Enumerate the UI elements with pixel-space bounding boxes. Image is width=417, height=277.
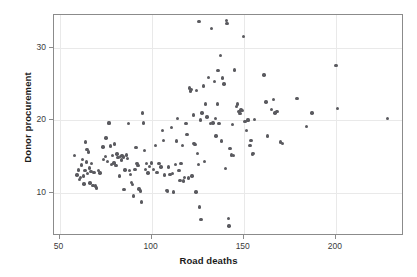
- data-point: [227, 224, 230, 227]
- data-point: [295, 97, 298, 100]
- data-point: [113, 142, 116, 145]
- data-point: [219, 54, 222, 57]
- data-point: [80, 163, 83, 166]
- y-tick-label: 30: [24, 42, 46, 52]
- data-point: [129, 173, 132, 176]
- data-point: [202, 84, 205, 87]
- data-point: [111, 154, 114, 157]
- data-point: [199, 118, 202, 121]
- x-tick-mark: [59, 235, 60, 239]
- data-point: [193, 143, 196, 146]
- data-point: [386, 117, 389, 120]
- data-point: [139, 189, 142, 192]
- data-point: [249, 139, 252, 142]
- data-point: [192, 113, 195, 116]
- data-point: [270, 108, 273, 111]
- plot-area: [53, 14, 403, 235]
- data-point: [221, 76, 224, 79]
- data-point: [104, 136, 107, 139]
- data-point: [177, 169, 180, 172]
- data-point: [167, 165, 170, 168]
- data-point: [248, 144, 251, 147]
- data-point: [174, 163, 177, 166]
- data-point: [247, 118, 250, 121]
- data-point: [118, 174, 121, 177]
- data-point: [150, 161, 153, 164]
- data-point: [310, 111, 313, 114]
- data-point: [205, 115, 208, 118]
- data-point: [195, 89, 198, 92]
- data-point: [227, 217, 230, 220]
- x-axis-title: Road deaths: [0, 255, 417, 266]
- x-tick-label: 100: [131, 241, 171, 251]
- data-point: [184, 122, 187, 125]
- data-point: [109, 144, 112, 147]
- data-point: [231, 123, 234, 126]
- data-point: [120, 158, 123, 161]
- data-point: [238, 112, 241, 115]
- data-point: [172, 190, 175, 193]
- data-point: [84, 140, 87, 143]
- data-point: [207, 76, 210, 79]
- data-point: [179, 162, 182, 165]
- y-tick-mark: [49, 119, 53, 120]
- x-tick-mark: [151, 235, 152, 239]
- data-point: [87, 150, 90, 153]
- data-point: [334, 64, 337, 67]
- data-point: [161, 129, 164, 132]
- data-point: [82, 174, 85, 177]
- data-point: [146, 171, 149, 174]
- data-point: [233, 68, 236, 71]
- data-point: [216, 102, 219, 105]
- data-point: [114, 164, 117, 167]
- data-point: [81, 158, 84, 161]
- data-point: [127, 122, 130, 125]
- data-point: [336, 107, 339, 110]
- data-point: [220, 139, 223, 142]
- data-point: [190, 88, 193, 91]
- x-tick-label: 200: [315, 241, 355, 251]
- data-point: [275, 110, 278, 113]
- data-point: [214, 134, 217, 137]
- data-point: [252, 152, 255, 155]
- data-point: [142, 121, 145, 124]
- data-point: [198, 205, 201, 208]
- x-tick-label: 50: [39, 241, 79, 251]
- data-point: [73, 154, 76, 157]
- data-point: [90, 162, 93, 165]
- data-point: [196, 152, 199, 155]
- data-point: [159, 165, 162, 168]
- data-point: [305, 125, 308, 128]
- data-point: [281, 142, 284, 145]
- data-point: [222, 82, 225, 85]
- x-tick-label: 150: [223, 241, 263, 251]
- data-point: [182, 179, 185, 182]
- data-point: [194, 190, 197, 193]
- data-point: [197, 163, 200, 166]
- data-point: [199, 218, 202, 221]
- data-point: [133, 168, 136, 171]
- data-point: [181, 144, 184, 147]
- data-point: [203, 160, 206, 163]
- data-point: [136, 164, 139, 167]
- data-point: [266, 134, 269, 137]
- x-tick-mark: [243, 235, 244, 239]
- data-point: [95, 186, 98, 189]
- data-point: [241, 109, 244, 112]
- data-point: [245, 129, 248, 132]
- data-point: [272, 98, 275, 101]
- data-point: [175, 139, 178, 142]
- data-point: [104, 155, 107, 158]
- data-point: [225, 22, 228, 25]
- data-point: [185, 133, 188, 136]
- data-point: [140, 200, 143, 203]
- data-point: [236, 102, 239, 105]
- data-point: [108, 121, 111, 124]
- data-point: [143, 149, 146, 152]
- data-point: [98, 171, 101, 174]
- data-point: [217, 122, 220, 125]
- data-point: [126, 157, 129, 160]
- data-point: [102, 158, 105, 161]
- data-point: [200, 111, 203, 114]
- data-point: [85, 160, 88, 163]
